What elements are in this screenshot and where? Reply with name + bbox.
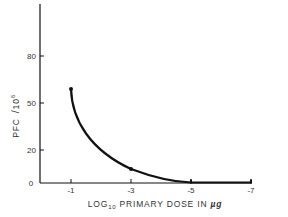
x-tick-label: -7 xyxy=(247,186,255,195)
y-axis-title: PFC /106 xyxy=(9,94,21,138)
chart: 80 50 20 0 -1 -3 -5 -7 PFC /106 LOG10 PR… xyxy=(0,0,288,217)
y-ticks: 80 50 20 0 xyxy=(27,52,44,188)
y-tick-label: 20 xyxy=(27,146,36,155)
y-tick-label: 80 xyxy=(27,52,36,61)
data-curve xyxy=(71,89,251,183)
y-tick-label: 0 xyxy=(29,179,34,188)
x-tick-label: -3 xyxy=(127,186,135,195)
x-axis-title: LOG10 PRIMARY DOSE IN µg xyxy=(88,199,222,210)
x-tick-label: -1 xyxy=(67,186,75,195)
y-tick-label: 50 xyxy=(27,99,36,108)
svg-text:PFC /106: PFC /106 xyxy=(9,94,21,138)
data-points xyxy=(69,87,252,184)
x-tick-label: -5 xyxy=(187,186,195,195)
data-point xyxy=(250,180,252,184)
data-point xyxy=(129,167,133,171)
data-point xyxy=(69,87,73,91)
data-point xyxy=(190,180,192,184)
